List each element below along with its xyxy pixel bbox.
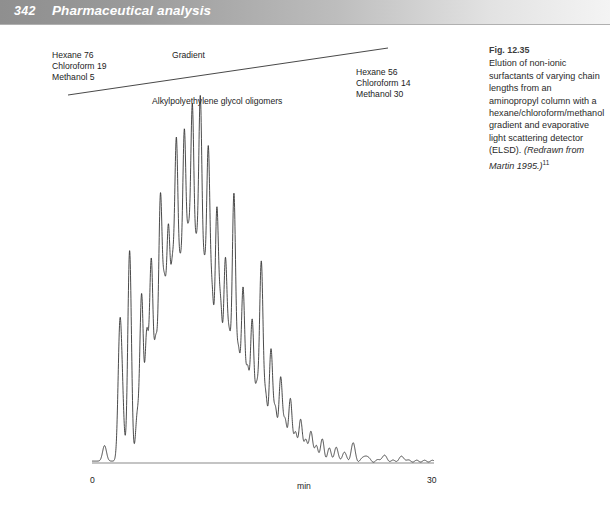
page-number: 342 xyxy=(14,4,36,18)
figure-caption-body: Elution of non-ionic surfactants of vary… xyxy=(489,57,601,172)
x-axis-tick-0: 0 xyxy=(90,475,95,485)
x-axis-tick-30: 30 xyxy=(427,475,437,485)
caption-reference-marker: 11 xyxy=(543,159,550,166)
chapter-title: Pharmaceutical analysis xyxy=(52,3,211,18)
running-header: 342 Pharmaceutical analysis xyxy=(0,0,610,26)
figure-area: Hexane 76 Chloroform 19 Methanol 5 Gradi… xyxy=(0,26,475,510)
figure-caption-number: Fig. 12.35 xyxy=(489,44,601,56)
chromatogram-trace xyxy=(92,95,434,462)
x-axis-label: min xyxy=(297,481,311,491)
chromatogram-plot xyxy=(0,26,475,510)
header-divider xyxy=(0,24,610,25)
caption-main-text: Elution of non-ionic surfactants of vary… xyxy=(489,58,604,155)
figure-caption: Fig. 12.35 Elution of non-ionic surfacta… xyxy=(489,44,601,172)
